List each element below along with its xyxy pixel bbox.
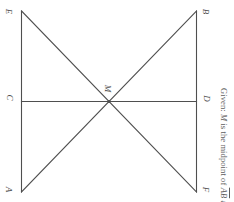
vertex-label-B: B	[201, 9, 210, 15]
vertex-label-D: D	[202, 95, 211, 102]
vertex-label-F: F	[201, 187, 210, 193]
figure-caption: Given: M is the midpoint of AB and CD	[220, 88, 229, 202]
caption-prefix: Given:	[219, 88, 229, 112]
geometry-figure: E B C M D A F Given: M is the midpoint o…	[0, 0, 234, 202]
caption-text: is the midpoint of	[219, 123, 229, 185]
vertex-label-E: E	[4, 9, 13, 15]
vertex-label-C: C	[5, 94, 14, 100]
vertex-label-A: A	[4, 187, 13, 193]
caption-segment-ab: AB	[219, 188, 229, 199]
vertex-label-M: M	[103, 85, 112, 93]
figure-canvas	[0, 0, 234, 202]
caption-subject: M	[219, 114, 229, 121]
caption-conjunction: and	[219, 200, 229, 202]
point-M-marker	[107, 100, 110, 103]
